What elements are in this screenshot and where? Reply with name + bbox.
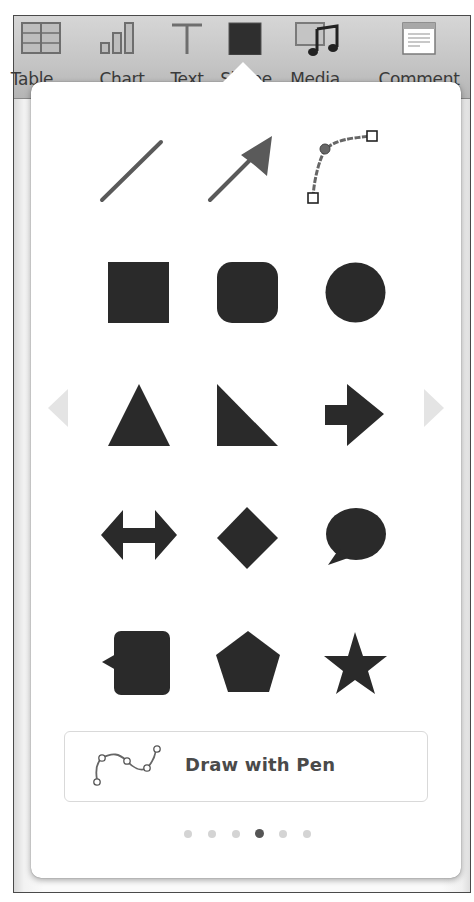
page-dot-5[interactable]: [279, 830, 287, 838]
diamond-icon: [217, 507, 279, 571]
shape-star[interactable]: [324, 632, 424, 732]
shape-pentagon[interactable]: [216, 631, 316, 731]
comment-icon: [402, 21, 436, 55]
line-icon: [88, 128, 188, 218]
speech-bubble-icon: [325, 507, 387, 571]
right-triangle-icon: [217, 384, 279, 448]
page-dot-4-active[interactable]: [255, 829, 264, 838]
arrow-line-icon: [196, 128, 296, 218]
pentagon-icon: [216, 631, 282, 695]
shape-right-triangle[interactable]: [217, 384, 317, 484]
page-dot-6[interactable]: [303, 830, 311, 838]
pen-curve-icon: [91, 744, 167, 792]
chart-icon: [84, 21, 134, 55]
draw-with-pen-label: Draw with Pen: [185, 754, 335, 775]
shape-square[interactable]: [108, 262, 208, 362]
page-dot-3[interactable]: [232, 830, 240, 838]
shape-arrow-line[interactable]: [196, 128, 296, 228]
page-dot-2[interactable]: [208, 830, 216, 838]
shape-circle[interactable]: [325, 262, 425, 362]
shape-callout-square[interactable]: [100, 630, 200, 730]
text-icon: [170, 21, 204, 55]
popover-arrow: [222, 62, 264, 83]
callout-square-icon: [100, 630, 172, 696]
star-icon: [324, 632, 388, 694]
shape-double-arrow[interactable]: [101, 508, 201, 608]
shape-speech-bubble[interactable]: [325, 507, 425, 607]
chevron-left-icon[interactable]: [46, 388, 70, 428]
shape-curve[interactable]: [300, 128, 400, 228]
shape-icon: [228, 21, 262, 55]
shape-diamond[interactable]: [217, 507, 317, 607]
square-icon: [108, 262, 170, 324]
page-dot-1[interactable]: [184, 830, 192, 838]
shape-rounded-square[interactable]: [217, 262, 317, 362]
double-arrow-icon: [101, 508, 181, 562]
media-icon: [295, 21, 343, 57]
arrow-right-icon: [325, 384, 387, 448]
triangle-icon: [108, 384, 170, 448]
table-icon: [21, 21, 61, 55]
chevron-right-icon[interactable]: [422, 388, 446, 428]
curve-icon: [300, 128, 400, 218]
draw-with-pen-button[interactable]: Draw with Pen: [64, 731, 428, 802]
rounded-square-icon: [217, 262, 279, 324]
shape-arrow-right[interactable]: [325, 384, 425, 484]
shape-line[interactable]: [88, 128, 188, 228]
shape-triangle[interactable]: [108, 384, 208, 484]
circle-icon: [325, 262, 387, 324]
